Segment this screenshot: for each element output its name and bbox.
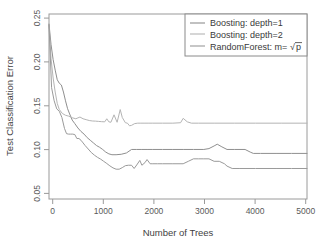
x-axis-title: Number of Trees: [143, 227, 214, 238]
sqrt-symbol-icon: √: [290, 42, 295, 52]
y-axis-ticks: [44, 18, 49, 193]
y-tick-label: 0.10: [32, 141, 42, 158]
x-tick-label: 5000: [296, 206, 315, 216]
x-tick-label: 3000: [195, 206, 214, 216]
legend-label-boosting-depth2: Boosting: depth=2: [210, 30, 283, 40]
y-axis-title: Test Classification Error: [4, 56, 15, 156]
sqrt-operand: p: [296, 42, 301, 52]
y-tick-label: 0.20: [32, 53, 42, 70]
x-axis-ticks: [53, 199, 306, 204]
chart-figure: 0.25 0.20 0.15 0.10 0.05 0 1000 2000 300…: [0, 0, 317, 248]
x-tick-label: 0: [50, 206, 55, 216]
x-axis-tick-labels: 0 1000 2000 3000 4000 5000: [50, 206, 315, 216]
chart-canvas: 0.25 0.20 0.15 0.10 0.05 0 1000 2000 300…: [0, 0, 317, 248]
legend: Boosting: depth=1 Boosting: depth=2 Rand…: [185, 14, 307, 56]
y-tick-label: 0.25: [32, 10, 42, 27]
y-axis-tick-labels: 0.25 0.20 0.15 0.10 0.05: [32, 10, 42, 202]
x-tick-label: 2000: [144, 206, 163, 216]
y-tick-label: 0.05: [32, 185, 42, 202]
legend-label-boosting-depth1: Boosting: depth=1: [210, 18, 283, 28]
legend-label-randomforest-text: RandomForest: m=: [210, 42, 287, 52]
x-tick-label: 1000: [94, 206, 113, 216]
x-tick-label: 4000: [246, 206, 265, 216]
y-tick-label: 0.15: [32, 97, 42, 114]
